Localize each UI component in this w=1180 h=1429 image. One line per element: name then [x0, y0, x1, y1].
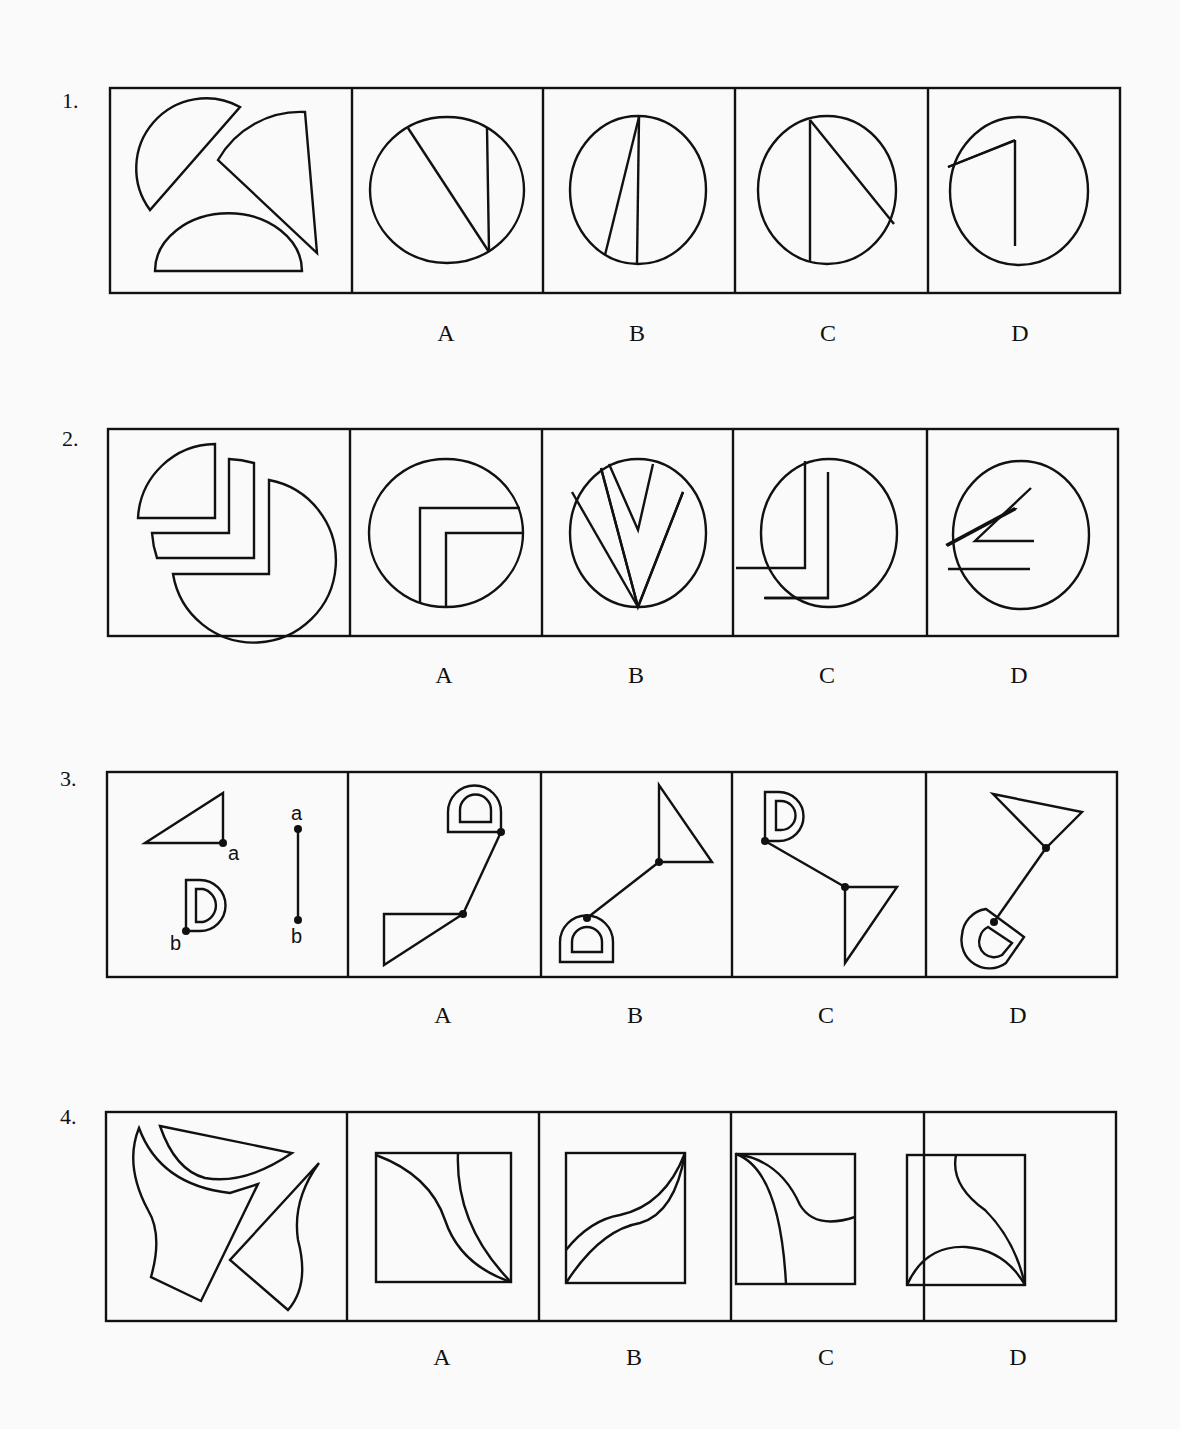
- question-1-given-pieces: [136, 98, 317, 271]
- question-1-label-b: B: [617, 320, 657, 347]
- question-4-option-c[interactable]: [736, 1154, 855, 1284]
- question-4-option-b[interactable]: [566, 1153, 685, 1283]
- question-1-option-d[interactable]: [948, 117, 1088, 265]
- question-2-option-b[interactable]: [570, 459, 706, 607]
- question-3-option-a[interactable]: [384, 786, 505, 966]
- question-4-label-c: C: [806, 1344, 846, 1371]
- question-3-given-pieces: a b a b: [145, 793, 303, 954]
- question-4-figure-strip: [0, 1100, 1180, 1330]
- question-4-label-d: D: [998, 1344, 1038, 1371]
- question-3-option-b[interactable]: [560, 785, 712, 962]
- question-3-option-d[interactable]: [961, 794, 1082, 968]
- question-3-label-a: A: [423, 1002, 463, 1029]
- svg-text:a: a: [228, 842, 240, 864]
- question-3-label-d: D: [998, 1002, 1038, 1029]
- question-2-figure-strip: [0, 420, 1180, 650]
- question-2-label-d: D: [999, 662, 1039, 689]
- question-1-frame: [110, 88, 1120, 293]
- question-2-label-c: C: [807, 662, 847, 689]
- question-4-given-pieces: [133, 1126, 319, 1310]
- question-1-option-a[interactable]: [370, 117, 524, 263]
- svg-text:b: b: [170, 932, 181, 954]
- question-2-option-d[interactable]: [946, 461, 1089, 609]
- question-1-label-c: C: [808, 320, 848, 347]
- question-4-label-b: B: [614, 1344, 654, 1371]
- svg-text:b: b: [291, 925, 302, 947]
- question-4-option-a[interactable]: [376, 1153, 511, 1282]
- question-1-label-a: A: [426, 320, 466, 347]
- question-2-given-pieces: [138, 444, 336, 643]
- question-2-option-c[interactable]: [736, 459, 897, 607]
- question-3-figure-strip: a b a b: [0, 760, 1180, 990]
- question-1-label-d: D: [1000, 320, 1040, 347]
- question-3-label-c: C: [806, 1002, 846, 1029]
- question-2-option-a[interactable]: [369, 459, 523, 607]
- svg-text:a: a: [291, 802, 303, 824]
- question-2-label-b: B: [616, 662, 656, 689]
- question-1-option-b[interactable]: [570, 116, 706, 264]
- question-3-label-b: B: [615, 1002, 655, 1029]
- question-4-label-a: A: [422, 1344, 462, 1371]
- question-2-label-a: A: [424, 662, 464, 689]
- question-1-option-c[interactable]: [758, 116, 896, 264]
- question-3-option-c[interactable]: [761, 792, 897, 963]
- question-1-figure-strip: [0, 80, 1180, 300]
- question-2-frame: [108, 429, 1118, 636]
